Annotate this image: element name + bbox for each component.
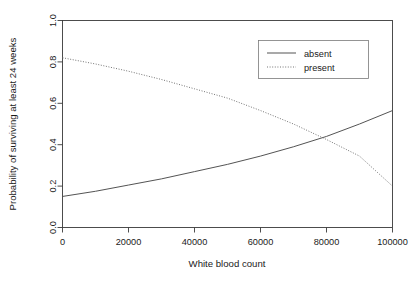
y-tick-label: 0.8 [48, 56, 58, 69]
x-tick-label: 60000 [248, 237, 274, 247]
x-axis-ticks [63, 228, 393, 233]
y-tick-label: 0.0 [48, 221, 58, 234]
y-tick-label: 0.2 [48, 180, 58, 193]
x-tick-label: 80000 [314, 237, 340, 247]
y-axis-title: Probability of surviving at least 24 wee… [7, 37, 18, 210]
x-tick-label: 0 [60, 237, 65, 247]
x-tick-label: 40000 [182, 237, 208, 247]
chart-container: 020000400006000080000100000 0.00.20.40.6… [0, 0, 413, 282]
y-axis-ticks [58, 21, 63, 228]
survival-probability-line-chart: 020000400006000080000100000 0.00.20.40.6… [0, 0, 413, 282]
x-axis-tick-labels: 020000400006000080000100000 [60, 237, 408, 247]
series-line-absent [63, 111, 393, 197]
y-tick-label: 1.0 [48, 14, 58, 27]
legend-label-absent: absent [304, 49, 332, 59]
y-axis-tick-labels: 0.00.20.40.60.81.0 [48, 14, 58, 234]
x-tick-label: 20000 [116, 237, 142, 247]
x-axis-title: White blood count [189, 258, 266, 269]
y-tick-label: 0.6 [48, 97, 58, 110]
legend-label-present: present [304, 63, 335, 73]
legend: absent present [259, 41, 369, 79]
x-tick-label: 100000 [377, 237, 408, 247]
y-tick-label: 0.4 [48, 138, 58, 151]
